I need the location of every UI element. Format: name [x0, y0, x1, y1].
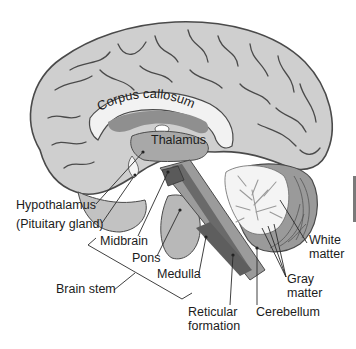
gray-line-1: Gray — [287, 272, 322, 286]
label-pituitary-gland: (Pituitary gland) — [16, 217, 104, 231]
reticular-line-2: formation — [188, 319, 240, 333]
gray-line-2: matter — [287, 286, 322, 300]
label-cerebellum: Cerebellum — [256, 305, 320, 319]
label-pons: Pons — [132, 251, 161, 265]
label-thalamus: Thalamus — [151, 133, 206, 147]
white-line-2: matter — [309, 247, 344, 261]
label-reticular-formation: Reticular formation — [188, 305, 240, 333]
label-medulla: Medulla — [157, 267, 201, 281]
label-midbrain: Midbrain — [100, 234, 148, 248]
label-white-matter: White matter — [309, 233, 344, 261]
white-line-1: White — [309, 233, 344, 247]
reticular-line-1: Reticular — [188, 305, 240, 319]
label-brain-stem: Brain stem — [56, 282, 116, 296]
label-gray-matter: Gray matter — [287, 272, 322, 300]
label-hypothalamus: Hypothalamus — [16, 198, 96, 212]
